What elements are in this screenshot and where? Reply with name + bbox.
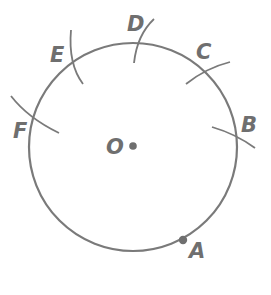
label-o: O: [106, 137, 124, 158]
label-e: E: [50, 45, 64, 66]
diagram-canvas: O A B C D E F: [0, 0, 271, 295]
label-d: D: [127, 14, 144, 35]
arc-c: [186, 62, 230, 84]
label-b: B: [241, 115, 257, 136]
point-a-marker: [179, 236, 187, 244]
construction-drawing: [0, 0, 271, 295]
center-point: [129, 142, 137, 150]
label-a: A: [189, 241, 205, 262]
label-f: F: [13, 121, 27, 142]
label-c: C: [196, 42, 211, 63]
